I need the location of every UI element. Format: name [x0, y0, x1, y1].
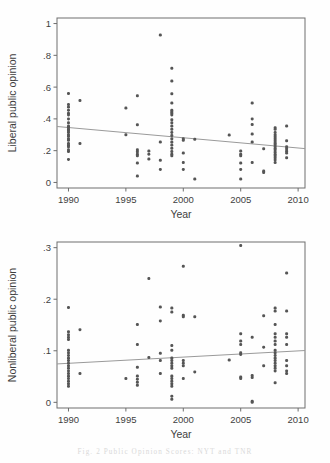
data-point	[170, 359, 173, 362]
data-point	[170, 344, 173, 347]
plot-frame	[57, 18, 305, 188]
data-point	[274, 161, 277, 164]
data-point	[170, 102, 173, 105]
data-point	[136, 366, 139, 369]
data-point	[274, 364, 277, 367]
data-point	[67, 150, 70, 153]
data-point	[239, 149, 242, 152]
data-point	[67, 109, 70, 112]
y-tick-label: 0	[46, 177, 51, 188]
data-point	[170, 67, 173, 70]
data-point	[182, 265, 185, 268]
data-point	[274, 369, 277, 372]
figure-caption: Fig. 2 Public Opinion Scores: NYT and TN…	[0, 448, 330, 463]
data-point	[274, 356, 277, 359]
data-point	[170, 311, 173, 314]
data-point	[159, 168, 162, 171]
data-point	[170, 144, 173, 147]
data-point	[251, 376, 254, 379]
data-point	[285, 156, 288, 159]
data-point	[67, 380, 70, 383]
plot-frame	[57, 242, 305, 408]
data-point	[136, 378, 139, 381]
data-point	[170, 154, 173, 157]
data-point	[159, 305, 162, 308]
x-tick-label: 1995	[115, 194, 136, 205]
chart-panel-nonliberal: 0.1.2.319901995200020052010YearNonlibera…	[0, 225, 330, 440]
data-point	[67, 139, 70, 142]
data-point	[251, 117, 254, 120]
data-point	[159, 352, 162, 355]
data-point	[67, 306, 70, 309]
data-point	[159, 34, 162, 37]
data-point	[170, 147, 173, 150]
data-point	[182, 315, 185, 318]
data-point	[170, 362, 173, 365]
data-point	[78, 328, 81, 331]
data-point	[170, 382, 173, 385]
y-axis-title: Liberal public opinion	[6, 54, 18, 153]
data-point	[239, 154, 242, 157]
data-point	[147, 277, 150, 280]
data-point	[170, 395, 173, 398]
data-point	[67, 349, 70, 352]
data-point	[136, 94, 139, 97]
liberal-public-opinion-chart: 0.2.4.6.8119901995200020052010YearLibera…	[0, 0, 330, 225]
data-point	[170, 349, 173, 352]
data-point	[274, 128, 277, 131]
data-point	[285, 310, 288, 313]
data-point	[274, 332, 277, 335]
data-point	[239, 162, 242, 165]
data-point	[124, 133, 127, 136]
data-point	[170, 306, 173, 309]
x-tick-label: 2010	[288, 194, 309, 205]
data-point	[170, 80, 173, 83]
x-tick-label: 1990	[58, 194, 79, 205]
data-point	[170, 385, 173, 388]
data-point	[67, 377, 70, 380]
data-point	[285, 125, 288, 128]
data-point	[159, 140, 162, 143]
data-point	[67, 105, 70, 108]
data-point	[67, 356, 70, 359]
data-point	[182, 364, 185, 367]
data-point	[136, 154, 139, 157]
data-point	[285, 359, 288, 362]
data-point	[67, 375, 70, 378]
data-point	[159, 159, 162, 162]
data-point	[251, 161, 254, 164]
data-point	[78, 142, 81, 145]
data-point	[170, 131, 173, 134]
x-tick-label: 2010	[288, 414, 309, 425]
data-point	[285, 372, 288, 375]
data-point	[67, 333, 70, 336]
data-point	[239, 343, 242, 346]
chart-panel-liberal: 0.2.4.6.8119901995200020052010YearLibera…	[0, 0, 330, 225]
data-point	[193, 177, 196, 180]
y-tick-label: 0	[46, 397, 51, 408]
data-point	[274, 336, 277, 339]
data-point	[78, 372, 81, 375]
data-point	[182, 161, 185, 164]
y-tick-label: .8	[43, 50, 51, 61]
data-point	[274, 343, 277, 346]
data-point	[239, 168, 242, 171]
data-point	[262, 364, 265, 367]
data-point	[136, 384, 139, 387]
data-point	[285, 271, 288, 274]
data-point	[285, 364, 288, 367]
data-point	[67, 330, 70, 333]
data-point	[67, 385, 70, 388]
data-point	[67, 369, 70, 372]
data-point	[147, 153, 150, 156]
y-tick-label: 1	[46, 18, 51, 29]
data-point	[285, 336, 288, 339]
data-point	[228, 134, 231, 137]
data-point	[170, 367, 173, 370]
data-point	[170, 118, 173, 121]
data-point	[136, 123, 139, 126]
data-point	[170, 364, 173, 367]
y-tick-label: .2	[43, 294, 51, 305]
data-point	[251, 123, 254, 126]
data-point	[136, 175, 139, 178]
